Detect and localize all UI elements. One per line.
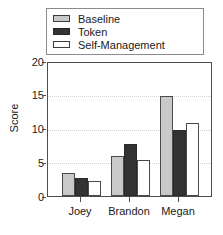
y-tick-label-10: 10 <box>22 124 44 135</box>
legend-label-baseline: Baseline <box>78 13 120 25</box>
bar-brandon-baseline <box>111 156 124 196</box>
x-tick-mark-joey <box>80 197 81 202</box>
legend-item-self-management: Self-Management <box>53 38 198 51</box>
x-tick-label-joey: Joey <box>68 205 91 217</box>
bar-megan-baseline <box>160 96 173 196</box>
bar-brandon-self-management <box>137 160 150 196</box>
bar-chart-figure: Baseline Token Self-Management Score 20 … <box>0 0 223 235</box>
x-tick-mark-brandon <box>129 197 130 202</box>
chart-legend: Baseline Token Self-Management <box>46 8 204 55</box>
y-tick-label-15: 15 <box>22 90 44 101</box>
bar-joey-baseline <box>62 173 75 196</box>
legend-item-token: Token <box>53 25 198 38</box>
legend-label-self-management: Self-Management <box>78 39 165 51</box>
y-axis-tick-labels: 20 15 10 5 0 <box>18 0 44 235</box>
bar-megan-token <box>173 130 186 197</box>
bar-megan-self-management <box>186 123 199 196</box>
plot-area <box>47 62 212 197</box>
y-tick-label-0: 0 <box>22 192 44 203</box>
bars-layer <box>48 63 211 196</box>
y-tick-mark-5 <box>42 163 46 164</box>
x-tick-label-brandon: Brandon <box>108 205 150 217</box>
y-tick-mark-10 <box>42 129 46 130</box>
y-tick-mark-0 <box>42 197 46 198</box>
legend-swatch-baseline-icon <box>53 15 70 22</box>
bar-joey-self-management <box>88 181 101 196</box>
y-tick-label-5: 5 <box>22 158 44 169</box>
bar-brandon-token <box>124 144 137 196</box>
x-tick-mark-megan <box>178 197 179 202</box>
legend-label-token: Token <box>78 26 107 38</box>
y-tick-label-20: 20 <box>22 57 44 68</box>
y-tick-mark-15 <box>42 95 46 96</box>
legend-item-baseline: Baseline <box>53 12 198 25</box>
legend-swatch-token-icon <box>53 28 70 35</box>
x-tick-label-megan: Megan <box>161 205 195 217</box>
y-tick-mark-20 <box>42 62 46 63</box>
bar-joey-token <box>75 178 88 196</box>
legend-swatch-self-management-icon <box>53 41 70 48</box>
